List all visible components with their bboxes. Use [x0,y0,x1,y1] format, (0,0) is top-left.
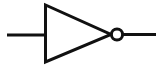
logic-gate-diagram [0,0,163,70]
inversion-bubble-icon [111,29,122,40]
not-gate-svg [0,0,163,70]
gate-triangle [46,5,112,62]
